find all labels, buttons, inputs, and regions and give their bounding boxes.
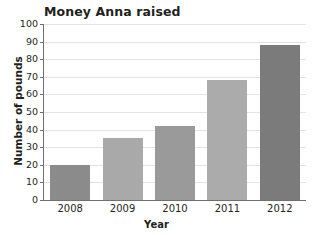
bar-2010: [155, 126, 195, 200]
y-tick-mark: [40, 24, 44, 25]
y-tick-label: 70: [0, 71, 38, 82]
y-axis-tick-labels: 1009080706050403020100: [0, 0, 38, 235]
y-tick-mark: [40, 42, 44, 43]
bar-2012: [260, 45, 300, 200]
bar-2011: [207, 80, 247, 200]
gridline: [44, 24, 306, 25]
y-tick-label: 80: [0, 53, 38, 64]
y-tick-label: 60: [0, 88, 38, 99]
y-tick-mark: [40, 112, 44, 113]
y-tick-label: 100: [0, 18, 38, 29]
y-tick-label: 40: [0, 124, 38, 135]
plot-area: [44, 24, 306, 200]
bar-2008: [50, 165, 90, 200]
y-tick-label: 30: [0, 141, 38, 152]
x-tick-label: 2012: [254, 203, 306, 214]
y-tick-label: 50: [0, 106, 38, 117]
bar-2009: [103, 138, 143, 200]
y-tick-mark: [40, 200, 44, 201]
x-tick-label: 2009: [97, 203, 149, 214]
y-tick-mark: [40, 59, 44, 60]
y-tick-mark: [40, 94, 44, 95]
y-tick-mark: [40, 147, 44, 148]
x-axis-label: Year: [0, 219, 313, 230]
y-tick-mark: [40, 77, 44, 78]
x-axis-tick-labels: 20082009201020112012: [44, 203, 306, 219]
y-tick-mark: [40, 130, 44, 131]
y-tick-label: 20: [0, 159, 38, 170]
x-tick-label: 2008: [44, 203, 96, 214]
y-tick-label: 0: [0, 194, 38, 205]
y-tick-label: 10: [0, 176, 38, 187]
x-tick-label: 2011: [201, 203, 253, 214]
gridline: [44, 42, 306, 43]
x-tick-label: 2010: [149, 203, 201, 214]
y-tick-mark: [40, 182, 44, 183]
y-tick-label: 90: [0, 36, 38, 47]
gridline: [44, 200, 306, 201]
y-tick-mark: [40, 165, 44, 166]
bar-chart: Money Anna raised Number of pounds 10090…: [0, 0, 313, 235]
chart-title: Money Anna raised: [44, 4, 181, 19]
